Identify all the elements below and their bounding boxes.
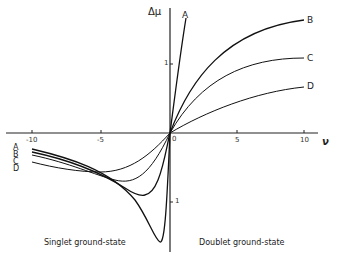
curve-label-d: D [307,81,314,91]
curve-a [32,18,186,242]
left-label-d: D [13,164,19,173]
chart-plot [0,0,338,258]
x-tick-label: -5 [97,136,104,144]
singlet-annotation: Singlet ground-state [44,238,126,247]
doublet-annotation: Doublet ground-state [199,238,284,247]
x-tick-label: 5 [235,136,239,144]
x-tick-label: 10 [300,136,309,144]
curve-label-a: A [182,10,188,20]
x-tick-label: -10 [26,136,37,144]
curve-label-b: B [307,15,313,25]
x-tick-label: 0 [172,135,176,143]
y-tick-label: 1 [164,59,168,67]
x-axis-label: ν [322,136,329,147]
y-tick-label: 1 [175,197,179,205]
y-axis-label: Δμ [148,6,161,17]
curve-d [32,87,304,172]
curve-label-c: C [307,53,313,63]
